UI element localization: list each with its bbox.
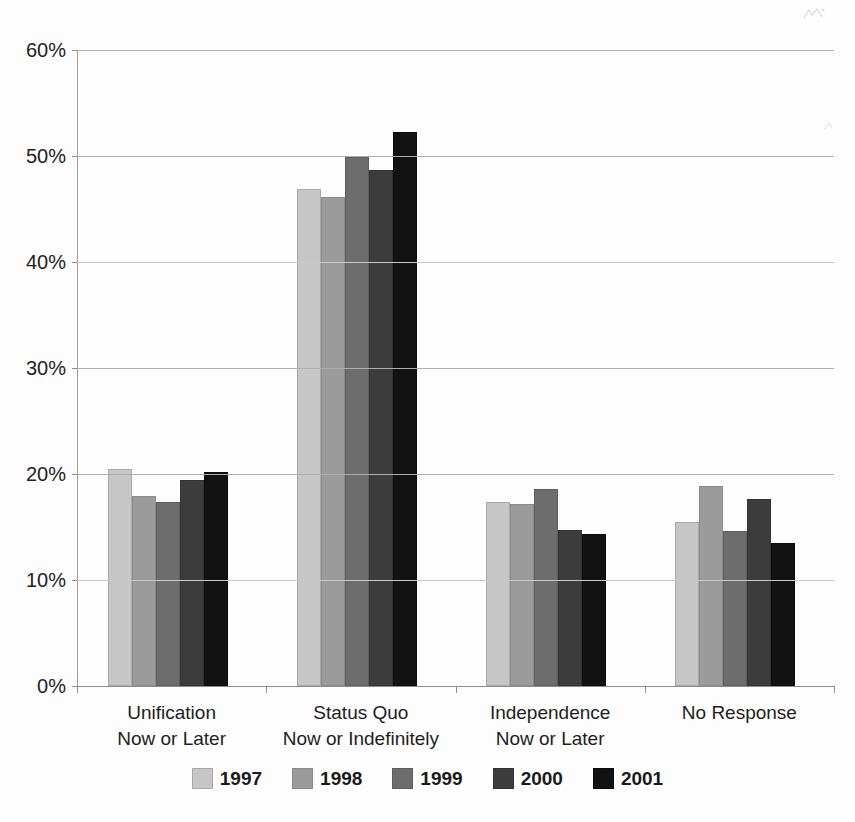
legend-item-1999[interactable]: 1999 [392,768,462,789]
bar-1997-2 [297,189,321,686]
legend-label-1998: 1998 [320,769,362,788]
legend-label-1999: 1999 [420,769,462,788]
category-label-line2: Now or Later [77,726,266,752]
category-label-line1: Status Quo [313,702,408,723]
bar-2000-2 [369,170,393,686]
bar-2001-2 [393,132,417,686]
category-label-line2: Now or Later [456,726,645,752]
category-label-3: IndependenceNow or Later [456,700,645,752]
gridline-60% [77,50,834,51]
category-label-2: Status QuoNow or Indefinitely [266,700,455,752]
category-label-line1: Unification [127,702,216,723]
legend-item-1998[interactable]: 1998 [292,768,362,789]
legend-swatch-icon-1997 [192,768,213,789]
bar-1999-3 [534,489,558,686]
bar-2001-3 [582,534,606,686]
legend-label-2000: 2000 [521,769,563,788]
bar-1997-3 [486,502,510,686]
gridline-20% [77,474,834,475]
category-tick [456,686,457,693]
y-axis-label-30%: 30% [0,358,66,378]
bar-2001-4 [771,543,795,686]
chart-page: 60%50%40%30%20%10%0% UnificationNow or L… [0,0,855,822]
chart-legend: 19971998199920002001 [0,768,855,789]
bar-1999-4 [723,531,747,686]
bar-1999-1 [156,502,180,686]
category-tick [266,686,267,693]
category-tick [77,686,78,693]
category-label-4: No Response [645,700,834,726]
y-axis-label-40%: 40% [0,252,66,272]
category-label-line2: Now or Indefinitely [266,726,455,752]
legend-item-1997[interactable]: 1997 [192,768,262,789]
y-axis-label-60%: 60% [0,40,66,60]
category-label-line1: No Response [682,702,797,723]
gridline-10% [77,580,834,581]
legend-item-2000[interactable]: 2000 [493,768,563,789]
bar-2000-4 [747,499,771,686]
bar-2000-3 [558,530,582,686]
bar-1998-3 [510,504,534,686]
category-tick [834,686,835,693]
legend-item-2001[interactable]: 2001 [593,768,663,789]
legend-swatch-icon-1999 [392,768,413,789]
plot-area [77,50,834,686]
y-axis-label-20%: 20% [0,464,66,484]
y-axis-label-0%: 0% [0,676,66,696]
bar-1997-4 [675,522,699,686]
gridline-40% [77,262,834,263]
gridline-30% [77,368,834,369]
bar-1998-1 [132,496,156,686]
gridline-50% [77,156,834,157]
category-tick [645,686,646,693]
category-label-1: UnificationNow or Later [77,700,266,752]
y-axis-label-50%: 50% [0,146,66,166]
bar-2001-1 [204,472,228,686]
legend-label-2001: 2001 [621,769,663,788]
legend-label-1997: 1997 [220,769,262,788]
scan-artifact-top-right [801,6,827,24]
bar-1997-1 [108,469,132,686]
y-axis-label-10%: 10% [0,570,66,590]
bar-1999-2 [345,157,369,686]
legend-swatch-icon-2000 [493,768,514,789]
bar-2000-1 [180,480,204,686]
legend-swatch-icon-1998 [292,768,313,789]
bar-1998-4 [699,486,723,686]
bar-1998-2 [321,197,345,686]
legend-swatch-icon-2001 [593,768,614,789]
category-label-line1: Independence [490,702,610,723]
